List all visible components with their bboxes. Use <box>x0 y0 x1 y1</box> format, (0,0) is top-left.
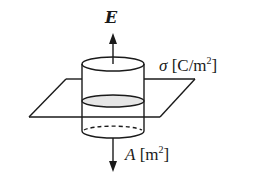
cylinder-bottom-front <box>82 131 144 138</box>
gauss-pillbox-diagram: E σ [C/m2] A [m2] <box>0 0 260 183</box>
cylinder-bottom-back-dashed <box>84 126 142 130</box>
area-unit-close: ] <box>164 145 170 164</box>
sigma-unit-close: ] <box>212 56 218 75</box>
area-label: A [m2] <box>125 145 169 163</box>
surface-charge-label: σ [C/m2] <box>159 56 217 74</box>
field-arrow-down-icon <box>109 138 117 172</box>
sigma-unit-open: [C/m <box>167 56 206 75</box>
area-unit-open: [m <box>135 145 158 164</box>
field-label-e: E <box>105 10 117 26</box>
area-symbol: A <box>125 145 135 164</box>
field-arrow-up-icon <box>109 33 117 64</box>
cross-section-area <box>82 95 144 107</box>
